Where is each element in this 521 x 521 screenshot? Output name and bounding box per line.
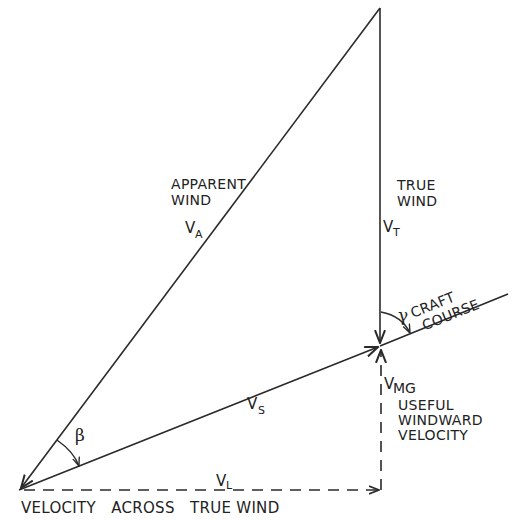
- vmg-label-line1: USEFUL: [398, 397, 454, 413]
- apparent-wind-vector: [21, 8, 380, 488]
- vector-diagram: APPARENT WIND V A TRUE WIND V T γ CRAFT …: [0, 0, 521, 521]
- beta-symbol: β: [75, 425, 85, 445]
- bottom-caption: VELOCITY ACROSS TRUE WIND: [21, 499, 279, 517]
- apparent-wind-label-line1: APPARENT: [171, 176, 246, 192]
- apparent-wind-label-line2: WIND: [171, 192, 211, 208]
- vmg-label-line2: WINDWARD: [398, 412, 483, 428]
- vt-subscript: T: [392, 226, 400, 239]
- vmg-label-line3: VELOCITY: [398, 427, 468, 443]
- true-wind-label-line2: WIND: [397, 193, 437, 209]
- va-subscript: A: [195, 228, 203, 241]
- vs-symbol: V: [247, 395, 258, 413]
- vmg-subscript: MG: [393, 380, 416, 396]
- vl-subscript: L: [226, 479, 233, 492]
- gamma-symbol: γ: [398, 305, 408, 325]
- vs-subscript: S: [258, 404, 265, 417]
- true-wind-label-line1: TRUE: [396, 177, 436, 193]
